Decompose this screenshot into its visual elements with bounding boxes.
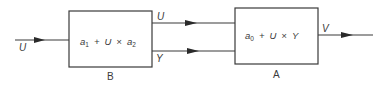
signal-y-b-to-a: Y [152,48,235,64]
signal-u-b-to-a: U [152,11,235,26]
arrow-right-icon [185,20,197,26]
block-diagram: U a1+U×a2 B U Y a0+U×Y A V [0,0,389,85]
arrow-right-icon [187,48,199,54]
block-a-label: A [273,69,280,80]
block-b-expression: a1+U×a2 [80,36,136,48]
input-label-u: U [19,42,27,53]
block-a: a0+U×Y A [235,8,318,80]
signal-label-u: U [157,11,165,22]
block-b-label: B [107,71,114,82]
block-b: a1+U×a2 B [69,11,152,82]
output-label-v: V [322,23,330,34]
output-signal-v: V [318,23,373,38]
input-signal-u: U [15,37,69,53]
arrow-right-icon [341,32,353,38]
signal-label-y: Y [156,53,164,64]
arrow-right-icon [34,37,45,43]
block-a-expression: a0+U×Y [245,30,299,42]
